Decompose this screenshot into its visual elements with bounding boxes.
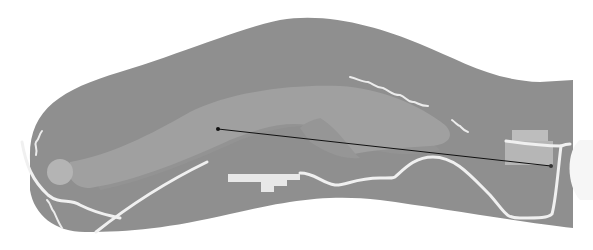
tee-marker[interactable] — [549, 164, 553, 168]
hole-map-svg — [0, 0, 593, 250]
target-marker[interactable] — [216, 127, 220, 131]
right-boundary-arc — [570, 140, 593, 200]
golf-hole-map — [0, 0, 593, 250]
putting-green — [47, 159, 73, 185]
